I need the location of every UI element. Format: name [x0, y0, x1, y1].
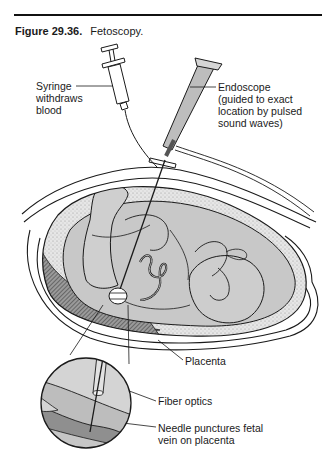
needle-label: Needle punctures fetal vein on placenta [158, 422, 263, 446]
magnifier-inset [36, 355, 132, 452]
endoscope-label: Endoscope (guided to exact location by p… [218, 81, 302, 129]
fiber-optics-label: Fiber optics [158, 395, 212, 407]
syringe-label: Syringe withdraws blood [36, 80, 83, 116]
syringe [101, 44, 158, 168]
placenta-label: Placenta [185, 355, 226, 367]
needle-tip-highlight [109, 288, 127, 304]
